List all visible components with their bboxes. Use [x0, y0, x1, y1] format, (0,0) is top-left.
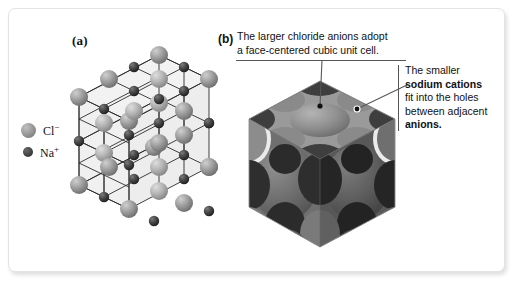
space-filling-cube-b	[223, 66, 421, 265]
callout-right-line2: sodium cations	[405, 78, 505, 92]
chloride-swatch-icon	[21, 123, 36, 138]
legend: Cl− Na+	[21, 119, 91, 163]
callout-sodium-cations: The smaller sodium cations fit into the …	[405, 64, 505, 132]
callout-right-line3: fit into the holes	[405, 91, 505, 105]
callout-chloride-anions: The larger chloride anions adopt a face-…	[237, 30, 413, 57]
callout-top-rule	[236, 60, 406, 61]
callout-top-line2: a face-centered cubic unit cell.	[237, 44, 413, 58]
legend-label-sodium: Na+	[40, 144, 59, 161]
lattice-model-a	[70, 46, 239, 226]
callout-right-line1: The smaller	[405, 64, 505, 78]
legend-item-sodium: Na+	[21, 141, 91, 163]
panel-label-a: (a)	[72, 33, 88, 49]
callout-right-line4: between adjacent	[405, 105, 505, 119]
legend-label-chloride: Cl−	[43, 122, 59, 139]
callout-right-line5: anions.	[405, 118, 505, 132]
callout-top-line1: The larger chloride anions adopt	[237, 30, 413, 44]
sodium-swatch-icon	[23, 147, 33, 157]
panel-label-b: (b)	[218, 32, 233, 46]
legend-item-chloride: Cl−	[21, 119, 91, 141]
callout-right-rule	[398, 65, 399, 131]
figure-panel: (a) (b) Cl− Na+ The larger chloride anio…	[8, 8, 505, 272]
